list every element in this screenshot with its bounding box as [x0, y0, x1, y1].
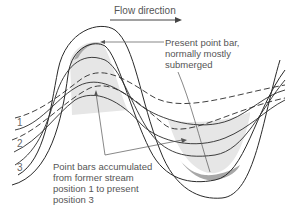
label-line: from former stream — [53, 172, 152, 183]
label-line: position 3 — [53, 194, 152, 205]
label-line: Point bars accumulated — [53, 161, 152, 172]
flow-direction-label: Flow direction — [114, 5, 176, 16]
label-line: normally mostly — [165, 48, 239, 59]
position-3-label: 3 — [17, 162, 23, 173]
label-line: submerged — [165, 59, 239, 70]
present-point-bar-label: Present point bar, normally mostly subme… — [165, 37, 239, 70]
position-2-label: 2 — [17, 138, 23, 149]
label-line: Present point bar, — [165, 37, 239, 48]
position-1-label: 1 — [17, 117, 23, 128]
flow-arrow-head — [175, 17, 182, 23]
accumulated-point-bars-label: Point bars accumulated from former strea… — [53, 161, 152, 205]
label-line: position 1 to present — [53, 183, 152, 194]
